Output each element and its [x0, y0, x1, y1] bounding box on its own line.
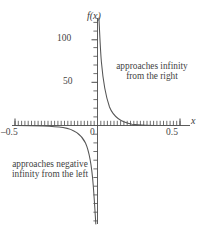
x-tick-label-positive-half: 0.5: [166, 127, 178, 138]
annotation-right-line-2: from the right: [104, 71, 200, 81]
y-tick-label-50: 50: [63, 76, 73, 87]
annotation-approaches-negative-infinity-left: approaches negative infinity from the le…: [2, 159, 98, 180]
y-tick-label-100: 100: [57, 33, 71, 44]
x-tick-label-zero: 0: [90, 127, 95, 138]
x-tick-label-negative-half: –0.5: [1, 127, 18, 138]
y-axis-major-ticks: [92, 40, 98, 83]
function-graph-figure: 100 50 –0.5 0 0.5 f(x) x approaches infi…: [0, 0, 202, 229]
annotation-left-line-1: approaches negative: [2, 159, 98, 169]
annotation-right-line-1: approaches infinity: [104, 61, 200, 71]
y-axis-label: f(x): [87, 10, 101, 21]
annotation-approaches-infinity-right: approaches infinity from the right: [104, 61, 200, 82]
x-axis-label: x: [191, 115, 195, 126]
graph-svg: [0, 0, 202, 229]
annotation-left-line-2: infinity from the left: [2, 169, 98, 179]
